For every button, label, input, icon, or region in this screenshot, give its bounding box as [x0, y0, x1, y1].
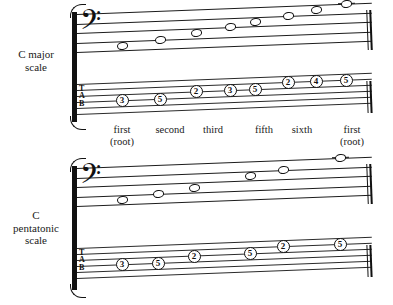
note-head [340, 0, 352, 8]
fret-number: 3 [116, 94, 129, 107]
fret-number: 4 [310, 75, 323, 88]
tab-letter: B [79, 100, 85, 107]
caption-c-pentatonic: Cpentatonicscale [0, 209, 72, 247]
degree-label-line: first [320, 124, 384, 136]
tab-line [77, 243, 372, 255]
brace-hook-bottom [70, 116, 86, 130]
caption-line: pentatonic [0, 222, 72, 235]
note-head [282, 11, 294, 20]
staff-barline-thick [369, 10, 373, 50]
staff-barline-thin [366, 164, 369, 204]
fret-number: 5 [249, 83, 262, 96]
note-head [152, 189, 164, 198]
caption-line: scale [0, 234, 72, 247]
tab-letter: B [79, 264, 85, 271]
bass-clef-icon: 𝄢 [80, 160, 101, 193]
tab-letters: TAB [79, 249, 85, 271]
fret-number: 5 [244, 247, 257, 260]
caption-c-major: C majorscale [0, 48, 72, 73]
fret-number: 5 [334, 238, 347, 251]
note-head [277, 165, 289, 174]
fret-number: 3 [224, 84, 237, 97]
degree-label-line: (root) [90, 136, 154, 148]
caption-line: C [0, 209, 72, 222]
note-head [154, 35, 166, 44]
staff-line [77, 176, 372, 188]
fret-number: 2 [188, 250, 201, 263]
degree-label-line: (root) [320, 136, 384, 148]
bass-clef-icon: 𝄢 [80, 6, 101, 39]
note-head [310, 5, 322, 14]
note-head [244, 171, 256, 180]
caption-line: scale [0, 61, 72, 74]
fret-number: 5 [152, 257, 165, 270]
staff-barline-thin [366, 10, 369, 50]
note-head [116, 195, 128, 204]
degree-label: first(root) [320, 124, 384, 148]
fret-number: 2 [190, 85, 203, 98]
fret-number: 3 [116, 258, 129, 271]
fret-number: 5 [154, 93, 167, 106]
fret-number: 2 [277, 240, 290, 253]
brace-hook-bottom [70, 284, 86, 298]
staff-line [77, 3, 372, 15]
fret-number: 2 [282, 76, 295, 89]
fret-number: 5 [340, 74, 353, 87]
tab-line [77, 73, 372, 85]
staff-barline-thick [369, 164, 373, 204]
note-head [334, 153, 346, 162]
tab-letters: TAB [79, 85, 85, 107]
tab-barline-thick [369, 81, 372, 113]
tab-line [77, 237, 372, 249]
caption-line: C major [0, 48, 72, 61]
tab-barline-thick [369, 245, 372, 277]
note-head [249, 17, 261, 26]
note-head [116, 41, 128, 50]
staff-line [77, 157, 372, 169]
